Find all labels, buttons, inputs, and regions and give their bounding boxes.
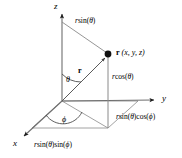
sin-function: sin( — [78, 16, 89, 25]
z-axis-label: z — [54, 2, 58, 11]
theta-angle-arc — [62, 74, 81, 82]
paren-close-2: ) — [70, 140, 73, 149]
radius-vector-label: r — [78, 67, 82, 75]
x-axis — [24, 101, 62, 136]
paren-close-2: ) — [153, 112, 156, 121]
r-sin-theta-line — [62, 22, 107, 53]
radial-projection-line — [62, 101, 108, 128]
theta-angle-label: θ — [66, 76, 70, 84]
cos-function: cos( — [115, 72, 128, 81]
r-sin-theta-sin-phi-label: rsin(θ)sin(ϕ) — [34, 141, 72, 149]
phi-angle-label: ϕ — [62, 116, 66, 124]
spherical-coordinates-figure: z y x rsin(θ) r (x, y, z) rcos(θ) rsin(θ… — [0, 0, 182, 158]
y-axis-label: y — [162, 94, 166, 103]
sin-function-2: sin( — [54, 140, 65, 149]
r-sin-theta-label: rsin(θ) — [75, 17, 95, 25]
r-cos-theta-label: rcos(θ) — [112, 73, 134, 81]
cos-function: cos( — [136, 112, 149, 121]
paren-close: ) — [93, 16, 96, 25]
point-marker — [105, 51, 112, 58]
x-axis-label: x — [13, 139, 17, 148]
point-coordinates: (x, y, z) — [120, 48, 145, 57]
point-label: r (x, y, z) — [116, 49, 145, 57]
r-sin-theta-cos-phi-label: rsin(θ)cos(ϕ) — [116, 113, 155, 121]
paren-close: ) — [131, 72, 134, 81]
sin-function: sin( — [119, 112, 130, 121]
sin-function-1: sin( — [37, 140, 48, 149]
